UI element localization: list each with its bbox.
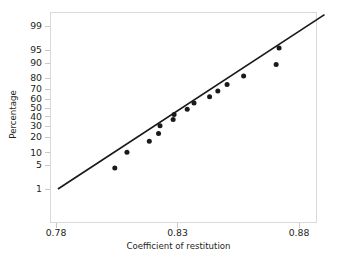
data-point bbox=[112, 166, 117, 171]
y-axis-title: Percentage bbox=[9, 80, 18, 150]
scatter-points bbox=[112, 46, 281, 171]
data-point bbox=[215, 89, 220, 94]
data-point bbox=[158, 123, 163, 128]
data-point bbox=[192, 101, 197, 106]
data-point bbox=[185, 107, 190, 112]
data-point bbox=[124, 150, 129, 155]
data-point bbox=[241, 74, 246, 79]
data-point bbox=[274, 62, 279, 67]
data-point bbox=[156, 131, 161, 136]
data-point bbox=[147, 139, 152, 144]
data-point bbox=[225, 82, 230, 87]
data-point bbox=[171, 117, 176, 122]
data-point bbox=[277, 46, 282, 51]
normal-reference-line bbox=[58, 15, 325, 189]
data-point bbox=[207, 94, 212, 99]
normal-probability-plot: 999590807060504030201051 0.780.830.88 Pe… bbox=[0, 0, 357, 258]
data-layer bbox=[0, 0, 357, 258]
x-axis-title: Coefficient of restitution bbox=[0, 242, 357, 251]
data-point bbox=[172, 112, 177, 117]
